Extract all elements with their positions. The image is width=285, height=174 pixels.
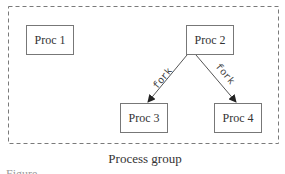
node-proc2: Proc 2 (187, 26, 234, 55)
node-proc1: Proc 1 (27, 26, 74, 55)
process-group-label: Process group (108, 151, 181, 166)
edge-proc2-proc4: fork (196, 55, 237, 102)
node-proc2-label: Proc 2 (195, 33, 226, 47)
node-proc3-label: Proc 3 (129, 111, 160, 125)
edge-proc2-proc4-label: fork (213, 62, 237, 87)
figure-caption: Figure ... (6, 167, 49, 174)
node-proc4-label: Proc 4 (223, 111, 254, 125)
edge-proc2-proc3: fork (148, 55, 187, 102)
node-proc1-label: Proc 1 (35, 33, 66, 47)
edge-proc2-proc3-label: fork (151, 66, 175, 91)
process-group-diagram: Proc 1 Proc 2 Proc 3 Proc 4 fork fork Pr… (0, 0, 285, 174)
node-proc3: Proc 3 (121, 104, 168, 133)
node-proc4: Proc 4 (215, 104, 262, 133)
